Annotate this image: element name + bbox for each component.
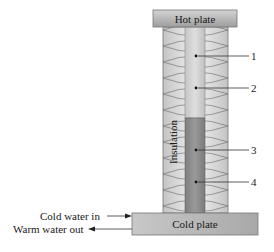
cold-plate-label: Cold plate xyxy=(132,218,258,230)
hot-plate-label: Hot plate xyxy=(153,13,237,25)
point-4-label: 4 xyxy=(251,176,257,188)
point-2-label: 2 xyxy=(251,82,257,94)
lower-rod xyxy=(185,118,205,213)
warm-water-out-label: Warm water out xyxy=(13,223,84,235)
insulation-label: Insulation xyxy=(167,120,179,164)
point-3-label: 3 xyxy=(251,144,257,156)
upper-rod xyxy=(185,27,205,118)
inlet-arrow-icon xyxy=(107,214,132,219)
outlet-arrow-icon xyxy=(88,227,132,232)
cold-water-in-label: Cold water in xyxy=(40,210,100,222)
point-1-label: 1 xyxy=(251,50,257,62)
